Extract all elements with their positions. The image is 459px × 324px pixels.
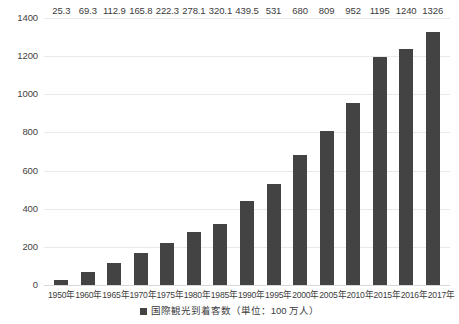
bar-value-label: 952 [345, 5, 361, 16]
x-tick-label: 1950年 [48, 287, 75, 303]
y-tick-label: 1200 [17, 50, 38, 61]
bar-value-label: 278.1 [182, 5, 205, 16]
x-tick-label: 1965年 [102, 287, 129, 303]
x-tick-label: 1970年 [129, 287, 156, 303]
x-tick-label: 1980年 [184, 287, 211, 303]
x-tick-label: 2005年 [319, 287, 346, 303]
bar-value-label: 1195 [370, 5, 390, 16]
legend-swatch-square-icon [140, 308, 147, 315]
x-axis-labels: 1950年1960年1965年1970年1975年1980年1985年1990年… [44, 287, 450, 303]
bar-slot: 531 [260, 18, 287, 285]
bar[interactable]: 1326 [426, 32, 440, 285]
bar-slot: 320.1 [207, 18, 234, 285]
bar[interactable]: 952 [346, 103, 360, 285]
bar[interactable]: 439.5 [240, 201, 254, 285]
bar-slot: 25.3 [48, 18, 75, 285]
x-tick-label: 1985年 [211, 287, 238, 303]
bar-slot: 278.1 [181, 18, 208, 285]
bar[interactable]: 1195 [373, 57, 387, 285]
bar-value-label: 1240 [396, 5, 417, 16]
bar[interactable]: 25.3 [54, 280, 68, 285]
bar-value-label: 320.1 [209, 5, 232, 16]
legend-item: 国際観光到着客数（単位：100 万人） [140, 305, 320, 317]
bar-slot: 952 [340, 18, 367, 285]
bar[interactable]: 69.3 [81, 272, 95, 285]
bar-chart: 0200400600800100012001400 25.369.3112.91… [0, 0, 459, 324]
bar-value-label: 222.3 [156, 5, 179, 16]
x-tick-label: 2017年 [428, 287, 455, 303]
bar[interactable]: 112.9 [107, 263, 121, 285]
bar[interactable]: 320.1 [213, 224, 227, 285]
bar[interactable]: 222.3 [160, 243, 174, 285]
plot-area: 0200400600800100012001400 25.369.3112.91… [44, 18, 450, 285]
x-tick-label: 2010年 [346, 287, 373, 303]
bar-slot: 1240 [393, 18, 420, 285]
bar-value-label: 809 [319, 5, 335, 16]
bar[interactable]: 809 [320, 131, 334, 285]
y-tick-label: 600 [22, 165, 38, 176]
bar-value-label: 1326 [422, 5, 443, 16]
bar-value-label: 439.5 [235, 5, 258, 16]
bars-layer: 25.369.3112.9165.8222.3278.1320.1439.553… [44, 18, 450, 285]
bar-slot: 222.3 [154, 18, 181, 285]
bar-slot: 680 [287, 18, 314, 285]
bar-slot: 1326 [419, 18, 446, 285]
bar-slot: 809 [313, 18, 340, 285]
bar-value-label: 69.3 [79, 5, 97, 16]
bar-value-label: 25.3 [52, 5, 70, 16]
y-tick-label: 400 [22, 203, 38, 214]
bar[interactable]: 278.1 [187, 232, 201, 285]
y-tick-label: 200 [22, 241, 38, 252]
x-tick-label: 1995年 [265, 287, 292, 303]
bar-value-label: 531 [266, 5, 282, 16]
bar-slot: 165.8 [128, 18, 155, 285]
legend-label: 国際観光到着客数（単位：100 万人） [151, 305, 320, 317]
y-tick-label: 1000 [17, 88, 38, 99]
x-tick-label: 2015年 [374, 287, 401, 303]
bar[interactable]: 165.8 [134, 253, 148, 285]
bar-value-label: 165.8 [129, 5, 152, 16]
bar[interactable]: 531 [267, 184, 281, 285]
x-tick-label: 2000年 [292, 287, 319, 303]
bar[interactable]: 680 [293, 155, 307, 285]
bar-value-label: 680 [292, 5, 308, 16]
x-tick-label: 1990年 [238, 287, 265, 303]
bar-value-label: 112.9 [103, 5, 126, 16]
bar-slot: 439.5 [234, 18, 261, 285]
y-tick-label: 800 [22, 126, 38, 137]
bar-slot: 112.9 [101, 18, 128, 285]
chart-legend: 国際観光到着客数（単位：100 万人） [0, 305, 459, 317]
bar[interactable]: 1240 [399, 49, 413, 285]
x-tick-label: 1975年 [157, 287, 184, 303]
y-tick-label: 1400 [17, 12, 38, 23]
bar-slot: 69.3 [75, 18, 102, 285]
bar-slot: 1195 [366, 18, 393, 285]
x-tick-label: 1960年 [75, 287, 102, 303]
y-tick-label: 0 [33, 279, 38, 290]
x-tick-label: 2016年 [401, 287, 428, 303]
gridline: 0 [44, 285, 450, 286]
